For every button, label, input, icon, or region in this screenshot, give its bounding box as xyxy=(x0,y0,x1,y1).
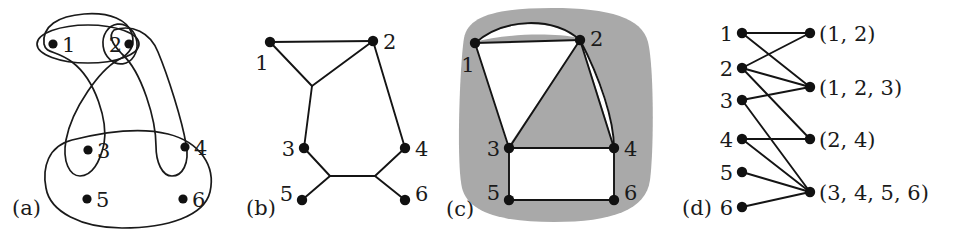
face-3-4-6-5 xyxy=(509,149,614,200)
hyperedge-node-3456-dot xyxy=(805,187,815,197)
edge-2-4 xyxy=(373,41,405,148)
vertex-2-label: 2 xyxy=(590,27,603,51)
edge-j1-3 xyxy=(304,86,312,148)
vertex-2-dot xyxy=(575,35,585,45)
panel-c: 1 2 3 4 5 6 (c) xyxy=(442,0,680,244)
vertex-3-dot xyxy=(299,143,309,153)
edge-2-e1 xyxy=(742,33,810,68)
vertex-6-label: 6 xyxy=(192,188,205,212)
panel-d: 1 2 3 4 5 6 (1, 2) (1, 2, 3) (2, 4) (3, … xyxy=(680,0,957,244)
vertex-6-dot xyxy=(609,195,619,205)
vertex-5-label: 5 xyxy=(280,182,293,206)
vertex-4-label: 4 xyxy=(720,128,733,152)
vertex-5-dot xyxy=(82,194,91,203)
vertex-4-label: 4 xyxy=(194,136,207,160)
edge-6-j3 xyxy=(375,176,405,200)
vertex-4-dot xyxy=(609,143,619,153)
vertex-6-label: 6 xyxy=(624,181,637,205)
edge-2-j1 xyxy=(312,41,373,86)
edge-5-j2 xyxy=(302,176,330,200)
vertex-2-label: 2 xyxy=(720,57,733,81)
vertex-1-label: 1 xyxy=(255,51,268,75)
vertex-5-dot xyxy=(297,195,307,205)
vertex-5-dot xyxy=(737,167,747,177)
edge-4-j3 xyxy=(375,148,405,176)
vertex-4-label: 4 xyxy=(415,137,428,161)
panel-a-caption: (a) xyxy=(12,196,41,220)
vertex-1-label: 1 xyxy=(720,22,733,46)
vertex-1-dot xyxy=(265,37,275,47)
edge-5-e4 xyxy=(742,172,810,192)
edge-3-e2 xyxy=(742,87,810,100)
edge-3-j2 xyxy=(304,148,330,176)
panel-d-caption: (d) xyxy=(682,196,712,220)
hyperedge-node-12-dot xyxy=(805,28,815,38)
edge-6-e4 xyxy=(742,192,810,207)
vertex-4-label: 4 xyxy=(624,137,637,161)
vertex-1-label: 1 xyxy=(62,33,75,57)
edge-1-j1 xyxy=(270,42,312,86)
vertex-1-dot xyxy=(48,39,57,48)
hyperedge-node-3456-label: (3, 4, 5, 6) xyxy=(819,181,929,205)
vertex-3-dot xyxy=(504,143,514,153)
panel-c-caption: (c) xyxy=(446,197,474,221)
vertex-1-dot xyxy=(470,38,480,48)
vertex-1-label: 1 xyxy=(461,53,474,77)
vertex-3-label: 3 xyxy=(487,137,500,161)
hyperedge-node-12-label: (1, 2) xyxy=(819,22,875,46)
hyperedge-node-24-dot xyxy=(805,134,815,144)
hyperedge-node-123-dot xyxy=(805,82,815,92)
vertex-6-label: 6 xyxy=(720,196,733,220)
vertex-3-label: 3 xyxy=(720,89,733,113)
panel-a: 1 2 3 4 5 6 (a) xyxy=(0,0,232,244)
vertex-4-dot xyxy=(400,143,410,153)
panel-b-caption: (b) xyxy=(246,196,276,220)
vertex-5-label: 5 xyxy=(720,161,733,185)
vertex-3-label: 3 xyxy=(282,137,295,161)
figure-container: 1 2 3 4 5 6 (a) xyxy=(0,0,957,244)
vertex-2-dot xyxy=(124,39,133,48)
hyperedge-24-outline xyxy=(111,28,187,176)
vertex-3-label: 3 xyxy=(97,139,110,163)
vertex-4-dot xyxy=(180,142,189,151)
vertex-2-dot xyxy=(737,63,747,73)
vertex-3-dot xyxy=(83,145,92,154)
vertex-6-dot xyxy=(737,202,747,212)
vertex-5-label: 5 xyxy=(96,188,109,212)
vertex-6-label: 6 xyxy=(415,182,428,206)
edge-1-2 xyxy=(270,41,373,42)
vertex-3-dot xyxy=(737,95,747,105)
vertex-5-label: 5 xyxy=(487,181,500,205)
vertex-2-label: 2 xyxy=(109,33,122,57)
vertex-2-label: 2 xyxy=(383,30,396,54)
vertex-2-dot xyxy=(368,36,378,46)
vertex-4-dot xyxy=(737,134,747,144)
vertex-1-dot xyxy=(737,28,747,38)
hyperedge-node-24-label: (2, 4) xyxy=(819,128,875,152)
vertex-6-dot xyxy=(400,195,410,205)
vertex-6-dot xyxy=(178,194,187,203)
hyperedge-node-123-label: (1, 2, 3) xyxy=(819,76,902,100)
vertex-5-dot xyxy=(504,195,514,205)
panel-b: 1 2 3 4 5 6 (b) xyxy=(232,0,442,244)
